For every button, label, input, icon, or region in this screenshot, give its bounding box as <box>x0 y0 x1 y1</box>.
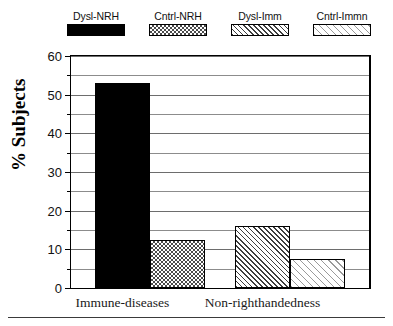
chart-legend: Dysl-NRH Cntrl-NRH Dysl-Imm Cntrl-Immn <box>60 10 380 44</box>
legend-swatch-solid-black <box>67 24 125 36</box>
y-axis-tick-label: 0 <box>55 281 62 296</box>
bar <box>290 259 345 288</box>
legend-label: Dysl-Imm <box>224 10 296 22</box>
legend-entry-dysl-nrh: Dysl-NRH <box>60 10 132 36</box>
bar <box>235 226 290 288</box>
legend-swatch-checkerboard <box>149 24 207 36</box>
y-axis-tick-label: 40 <box>48 126 62 141</box>
legend-label: Dysl-NRH <box>60 10 132 22</box>
y-axis-tick-label: 10 <box>48 242 62 257</box>
bar-group <box>71 56 369 288</box>
legend-swatch-dense-hatch <box>231 24 289 36</box>
y-axis-title: % Subjects <box>8 79 30 171</box>
legend-entry-cntrl-nrh: Cntrl-NRH <box>142 10 214 36</box>
y-axis-tick-label: 30 <box>48 165 62 180</box>
y-axis-tick-label: 50 <box>48 87 62 102</box>
y-axis-tick-label: 20 <box>48 203 62 218</box>
x-axis-tick-label: Non-righthandedness <box>205 295 320 311</box>
plot-area: 0102030405060 Immune-diseasesNon-rightha… <box>70 55 371 289</box>
legend-swatch-light-hatch <box>313 24 371 36</box>
footer-rule <box>8 317 385 318</box>
y-axis-tick-label: 60 <box>48 49 62 64</box>
bar-chart-figure: Dysl-NRH Cntrl-NRH Dysl-Imm Cntrl-Immn %… <box>0 0 393 326</box>
bar <box>150 240 205 288</box>
legend-label: Cntrl-Immn <box>306 10 378 22</box>
legend-label: Cntrl-NRH <box>142 10 214 22</box>
x-axis-tick-label: Immune-diseases <box>76 295 170 311</box>
legend-entry-dysl-imm: Dysl-Imm <box>224 10 296 36</box>
legend-entry-cntrl-immn: Cntrl-Immn <box>306 10 378 36</box>
y-axis-tick <box>65 288 71 289</box>
bar <box>95 83 150 288</box>
